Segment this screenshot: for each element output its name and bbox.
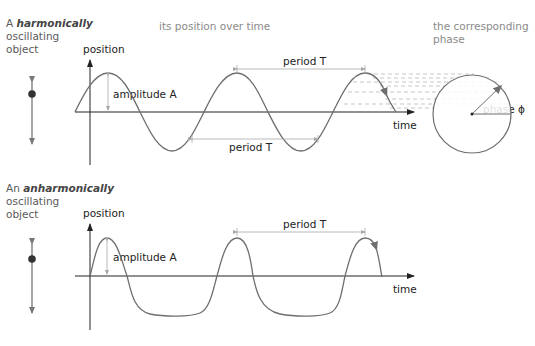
anharmonic-axes bbox=[75, 224, 414, 330]
anharmonic-period-guide bbox=[237, 228, 365, 236]
harmonic-period-bottom-guide bbox=[192, 135, 318, 143]
anharmonic-curve bbox=[90, 238, 376, 316]
oscillation-diagram bbox=[0, 0, 535, 346]
phase-circle bbox=[433, 75, 511, 153]
harmonic-period-top-guide bbox=[237, 65, 365, 73]
harmonic-oscillator-icon bbox=[28, 82, 36, 144]
anharmonic-oscillator-icon bbox=[28, 244, 36, 313]
